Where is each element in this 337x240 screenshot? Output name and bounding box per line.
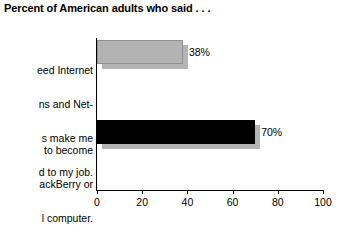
x-tick-mark-100 xyxy=(323,190,324,194)
x-tick-label-80: 80 xyxy=(263,196,293,208)
x-tick-mark-60 xyxy=(233,190,234,194)
x-tick-label-100: 100 xyxy=(308,196,337,208)
x-tick-mark-0 xyxy=(97,190,98,194)
category-label-1: to become ackBerry or l computer. xyxy=(0,122,93,240)
x-tick-label-20: 20 xyxy=(127,196,157,208)
x-tick-label-0: 0 xyxy=(82,196,112,208)
x-tick-mark-40 xyxy=(187,190,188,194)
category-label-1-line-1: ackBerry or xyxy=(0,179,93,190)
bar-1 xyxy=(97,120,255,144)
category-label-1-line-2: l computer. xyxy=(0,213,93,224)
category-label-0-line-0: eed Internet xyxy=(0,65,93,76)
bar-1-value-label: 70% xyxy=(261,126,282,138)
x-tick-label-40: 40 xyxy=(172,196,202,208)
x-tick-mark-80 xyxy=(278,190,279,194)
bar-0 xyxy=(97,40,183,64)
chart-title: Percent of American adults who said . . … xyxy=(4,2,210,14)
category-label-1-line-0: to become xyxy=(0,145,93,156)
bar-0-value-label: 38% xyxy=(189,46,210,58)
x-axis-line xyxy=(96,190,324,191)
x-tick-label-60: 60 xyxy=(218,196,248,208)
x-tick-mark-20 xyxy=(142,190,143,194)
category-label-0-line-1: ns and Net- xyxy=(0,99,93,110)
